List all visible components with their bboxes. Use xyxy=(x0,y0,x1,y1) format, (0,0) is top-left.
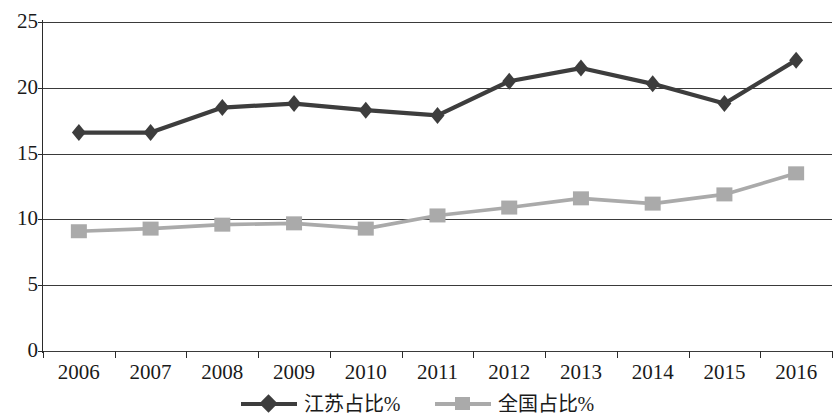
square-marker xyxy=(430,208,446,222)
legend-swatch xyxy=(435,395,491,413)
legend-label: 江苏占比% xyxy=(304,393,401,415)
y-tick-label-5: 5 xyxy=(4,274,38,295)
square-marker xyxy=(286,216,302,230)
diamond-marker xyxy=(215,99,229,116)
square-marker xyxy=(358,222,374,236)
x-tick-mark xyxy=(617,351,618,358)
y-tick-label-25: 25 xyxy=(4,11,38,32)
legend-swatch xyxy=(241,395,297,413)
x-tick-label-2006: 2006 xyxy=(58,360,100,384)
diamond-marker xyxy=(72,124,86,141)
diamond-marker xyxy=(359,102,373,119)
square-marker xyxy=(214,218,230,232)
x-axis: 2006200720082009201020112012201320142015… xyxy=(43,351,832,391)
legend-entry-1[interactable]: 江苏占比% xyxy=(241,393,401,415)
x-tick-mark xyxy=(330,351,331,358)
x-tick-mark xyxy=(760,351,761,358)
chart-legend: 江苏占比%全国占比% xyxy=(0,388,835,419)
x-tick-label-2008: 2008 xyxy=(201,360,243,384)
y-tick-label-0: 0 xyxy=(4,340,38,361)
x-tick-mark xyxy=(832,351,833,358)
square-marker xyxy=(143,222,159,236)
diamond-marker xyxy=(502,73,516,90)
x-tick-label-2015: 2015 xyxy=(703,360,745,384)
square-marker xyxy=(71,224,87,238)
diamond-marker xyxy=(646,75,660,92)
x-tick-label-2013: 2013 xyxy=(560,360,602,384)
x-tick-mark xyxy=(689,351,690,358)
diamond-marker xyxy=(287,95,301,112)
series-line xyxy=(79,173,796,231)
x-tick-mark xyxy=(473,351,474,358)
x-tick-label-2014: 2014 xyxy=(632,360,674,384)
series-1 xyxy=(72,52,803,141)
x-tick-label-2010: 2010 xyxy=(345,360,387,384)
x-tick-label-2016: 2016 xyxy=(775,360,817,384)
x-tick-mark xyxy=(115,351,116,358)
x-tick-label-2011: 2011 xyxy=(417,360,458,384)
series-2 xyxy=(71,166,804,238)
legend-label: 全国占比% xyxy=(498,393,595,415)
x-tick-mark xyxy=(402,351,403,358)
x-tick-label-2009: 2009 xyxy=(273,360,315,384)
y-tick-label-10: 10 xyxy=(4,208,38,229)
square-marker xyxy=(788,166,804,180)
y-axis: 0510152025 xyxy=(0,0,38,419)
square-marker xyxy=(501,201,517,215)
series-layer xyxy=(43,22,832,351)
diamond-marker xyxy=(789,52,803,69)
square-marker xyxy=(645,197,661,211)
square-marker xyxy=(716,187,732,201)
square-marker xyxy=(455,397,470,410)
x-tick-mark xyxy=(258,351,259,358)
diamond-marker xyxy=(144,124,158,141)
diamond-marker xyxy=(717,95,731,112)
y-tick-label-15: 15 xyxy=(4,143,38,164)
x-tick-mark xyxy=(186,351,187,358)
diamond-marker xyxy=(431,107,445,124)
y-tick-label-20: 20 xyxy=(4,77,38,98)
x-tick-label-2012: 2012 xyxy=(488,360,530,384)
legend-entry-2[interactable]: 全国占比% xyxy=(435,393,595,415)
diamond-marker xyxy=(574,60,588,77)
x-tick-mark xyxy=(545,351,546,358)
x-tick-mark xyxy=(43,351,44,358)
square-marker xyxy=(573,191,589,205)
diamond-marker xyxy=(260,394,278,412)
plot-area xyxy=(43,22,832,351)
x-tick-label-2007: 2007 xyxy=(130,360,172,384)
line-chart: 0510152025 20062007200820092010201120122… xyxy=(0,0,835,419)
